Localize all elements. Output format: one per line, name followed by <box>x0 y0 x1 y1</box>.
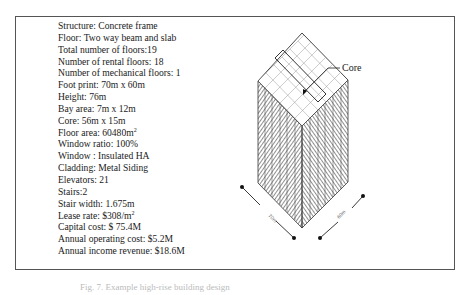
building-isometric-drawing: 70m 60m <box>0 0 472 295</box>
core-label: Core <box>342 62 361 73</box>
figure-caption: Fig. 7. Example high-rise building desig… <box>80 282 230 292</box>
svg-text:60m: 60m <box>335 209 346 220</box>
